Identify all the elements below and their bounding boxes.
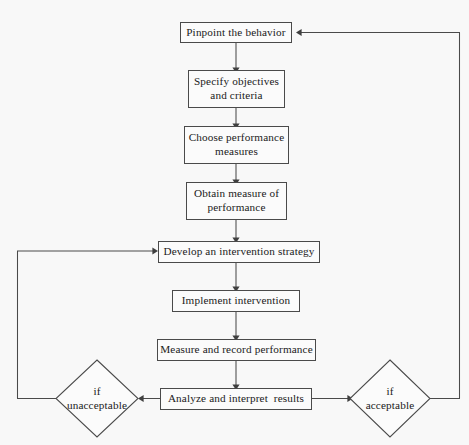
node-analyze[interactable]: Analyze and interpret results: [160, 388, 312, 410]
edge-acceptable-pinpoint: [299, 33, 460, 399]
node-unacceptable-label-line2: unacceptable: [67, 399, 127, 413]
node-implement[interactable]: Implement intervention: [172, 290, 300, 312]
node-develop[interactable]: Develop an intervention strategy: [158, 241, 320, 263]
node-acceptable-label-line1: if: [386, 385, 393, 399]
flowchart-canvas: Pinpoint the behavior Specify objectives…: [0, 0, 469, 445]
node-unacceptable[interactable]: if unacceptable: [53, 380, 141, 417]
node-implement-label: Implement intervention: [182, 294, 291, 308]
node-obtain-label-line1: Obtain measure of: [194, 187, 279, 201]
node-record[interactable]: Measure and record performance: [157, 339, 316, 361]
node-measures-label-line1: Choose performance: [189, 131, 285, 145]
node-record-label: Measure and record performance: [160, 343, 313, 357]
node-pinpoint-label: Pinpoint the behavior: [186, 26, 285, 40]
node-objectives-label-line1: Specify objectives: [194, 75, 279, 89]
node-analyze-label: Analyze and interpret results: [168, 392, 304, 406]
node-pinpoint[interactable]: Pinpoint the behavior: [180, 22, 292, 43]
node-objectives-label-line2: and criteria: [210, 89, 262, 103]
flowchart-connectors: [0, 0, 469, 445]
node-measures-label-line2: measures: [215, 145, 258, 159]
node-obtain-label-line2: performance: [207, 201, 265, 215]
node-acceptable[interactable]: if acceptable: [350, 380, 430, 417]
node-develop-label: Develop an intervention strategy: [163, 245, 314, 259]
node-obtain[interactable]: Obtain measure of performance: [186, 182, 287, 220]
node-acceptable-label-line2: acceptable: [366, 399, 415, 413]
node-unacceptable-label-line1: if: [93, 385, 100, 399]
node-objectives[interactable]: Specify objectives and criteria: [188, 70, 285, 108]
node-measures[interactable]: Choose performance measures: [184, 126, 289, 164]
